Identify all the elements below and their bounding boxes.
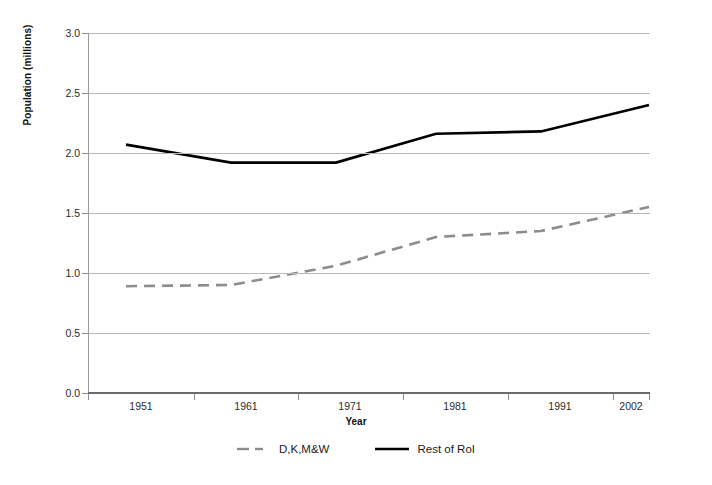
legend-item-dkmw[interactable]: D,K,M&W [237, 443, 329, 455]
x-axis-tick-label: 1951 [129, 400, 152, 412]
x-axis-spine [88, 392, 650, 394]
gridline [88, 333, 650, 334]
gridline [88, 273, 650, 274]
line-chart: Population (millions) 0.0 0.5 1.0 1.5 2.… [0, 0, 712, 485]
legend-label: D,K,M&W [279, 443, 329, 455]
plot-area [88, 33, 650, 393]
x-axis-tick-mark [649, 394, 650, 400]
y-axis-tick-label: 1.5 [65, 207, 80, 219]
legend: D,K,M&W Rest of RoI [0, 443, 712, 455]
y-axis-tick-label: 0.5 [65, 327, 80, 339]
y-axis-tick-label: 1.0 [65, 267, 80, 279]
x-axis-tick-mark [194, 394, 195, 400]
x-axis-tick-mark [508, 394, 509, 400]
y-axis-tick-label: 3.0 [65, 27, 80, 39]
x-axis-tick-mark [403, 394, 404, 400]
gridline [88, 33, 650, 34]
x-axis-tick-mark [88, 394, 89, 400]
series-line-dkmw [126, 207, 649, 286]
gridline [88, 153, 650, 154]
legend-label: Rest of RoI [417, 443, 475, 455]
x-axis-title: Year [0, 416, 712, 427]
x-axis-tick-label: 1991 [548, 400, 571, 412]
y-axis-tick-group: 0.0 0.5 1.0 1.5 2.0 2.5 3.0 [0, 0, 80, 485]
x-axis-tick-label: 1961 [234, 400, 257, 412]
solid-black-line-icon [375, 444, 411, 454]
x-axis-tick-label: 2002 [619, 400, 642, 412]
x-axis-tick-mark [298, 394, 299, 400]
y-axis-tick-label: 0.0 [65, 387, 80, 399]
legend-item-rest-of-roi[interactable]: Rest of RoI [375, 443, 475, 455]
x-axis-tick-mark [613, 394, 614, 400]
dashed-gray-line-icon [237, 444, 273, 454]
y-axis-spine [88, 33, 89, 393]
x-axis-tick-label: 1981 [443, 400, 466, 412]
gridline [88, 93, 650, 94]
x-axis-tick-label: 1971 [338, 400, 361, 412]
y-axis-tick-label: 2.0 [65, 147, 80, 159]
gridline [88, 213, 650, 214]
y-axis-tick-label: 2.5 [65, 87, 80, 99]
